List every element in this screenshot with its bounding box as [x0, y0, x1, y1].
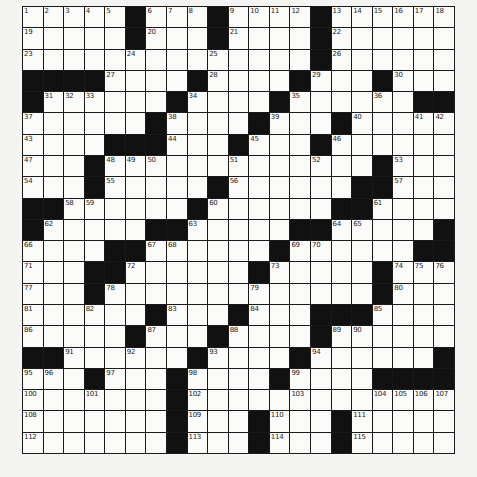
grid-cell[interactable]: 83 [167, 305, 187, 325]
grid-cell[interactable]: 32 [64, 92, 84, 112]
grid-cell[interactable] [44, 241, 64, 261]
grid-cell[interactable] [188, 28, 208, 48]
grid-cell[interactable] [64, 135, 84, 155]
grid-cell[interactable]: 114 [270, 433, 290, 453]
grid-cell[interactable] [64, 390, 84, 410]
grid-cell[interactable] [229, 369, 249, 389]
grid-cell[interactable]: 64 [332, 220, 352, 240]
grid-cell[interactable]: 107 [434, 390, 454, 410]
grid-cell[interactable] [146, 177, 166, 197]
grid-cell[interactable] [414, 326, 434, 346]
grid-cell[interactable] [188, 284, 208, 304]
grid-cell[interactable] [44, 411, 64, 431]
grid-cell[interactable] [229, 262, 249, 282]
grid-cell[interactable]: 96 [44, 369, 64, 389]
grid-cell[interactable] [270, 50, 290, 70]
grid-cell[interactable] [64, 262, 84, 282]
grid-cell[interactable] [85, 326, 105, 346]
grid-cell[interactable]: 74 [393, 262, 413, 282]
grid-cell[interactable] [229, 390, 249, 410]
grid-cell[interactable]: 2 [44, 7, 64, 27]
grid-cell[interactable]: 100 [23, 390, 43, 410]
grid-cell[interactable] [208, 220, 228, 240]
grid-cell[interactable] [249, 28, 269, 48]
grid-cell[interactable]: 62 [44, 220, 64, 240]
grid-cell[interactable] [208, 369, 228, 389]
grid-cell[interactable] [126, 433, 146, 453]
grid-cell[interactable] [332, 177, 352, 197]
grid-cell[interactable] [64, 28, 84, 48]
grid-cell[interactable] [352, 71, 372, 91]
grid-cell[interactable]: 69 [290, 241, 310, 261]
grid-cell[interactable]: 36 [373, 92, 393, 112]
grid-cell[interactable]: 12 [290, 7, 310, 27]
grid-cell[interactable]: 34 [188, 92, 208, 112]
grid-cell[interactable] [188, 135, 208, 155]
grid-cell[interactable]: 103 [290, 390, 310, 410]
grid-cell[interactable] [352, 156, 372, 176]
grid-cell[interactable] [290, 50, 310, 70]
grid-cell[interactable] [270, 156, 290, 176]
grid-cell[interactable]: 19 [23, 28, 43, 48]
grid-cell[interactable] [208, 305, 228, 325]
grid-cell[interactable] [188, 305, 208, 325]
grid-cell[interactable] [229, 220, 249, 240]
grid-cell[interactable] [146, 348, 166, 368]
grid-cell[interactable] [352, 262, 372, 282]
grid-cell[interactable] [126, 284, 146, 304]
grid-cell[interactable] [64, 241, 84, 261]
grid-cell[interactable] [290, 177, 310, 197]
grid-cell[interactable]: 25 [208, 50, 228, 70]
grid-cell[interactable]: 56 [229, 177, 249, 197]
grid-cell[interactable]: 86 [23, 326, 43, 346]
grid-cell[interactable] [167, 156, 187, 176]
grid-cell[interactable]: 47 [23, 156, 43, 176]
grid-cell[interactable]: 112 [23, 433, 43, 453]
grid-cell[interactable] [270, 305, 290, 325]
grid-cell[interactable] [229, 433, 249, 453]
grid-cell[interactable] [64, 50, 84, 70]
grid-cell[interactable] [167, 28, 187, 48]
grid-cell[interactable]: 1 [23, 7, 43, 27]
grid-cell[interactable]: 101 [85, 390, 105, 410]
grid-cell[interactable] [414, 348, 434, 368]
grid-cell[interactable] [188, 50, 208, 70]
grid-cell[interactable] [290, 135, 310, 155]
grid-cell[interactable] [44, 390, 64, 410]
grid-cell[interactable] [105, 390, 125, 410]
grid-cell[interactable] [290, 411, 310, 431]
grid-cell[interactable]: 15 [373, 7, 393, 27]
grid-cell[interactable]: 4 [85, 7, 105, 27]
grid-cell[interactable] [146, 199, 166, 219]
grid-cell[interactable]: 20 [146, 28, 166, 48]
grid-cell[interactable] [393, 135, 413, 155]
grid-cell[interactable]: 53 [393, 156, 413, 176]
grid-cell[interactable] [332, 262, 352, 282]
grid-cell[interactable]: 58 [64, 199, 84, 219]
grid-cell[interactable] [290, 113, 310, 133]
grid-cell[interactable] [332, 369, 352, 389]
grid-cell[interactable] [208, 156, 228, 176]
grid-cell[interactable]: 23 [23, 50, 43, 70]
grid-cell[interactable]: 49 [126, 156, 146, 176]
grid-cell[interactable]: 35 [290, 92, 310, 112]
grid-cell[interactable] [270, 390, 290, 410]
grid-cell[interactable] [434, 199, 454, 219]
grid-cell[interactable]: 109 [188, 411, 208, 431]
grid-cell[interactable] [105, 113, 125, 133]
grid-cell[interactable] [64, 220, 84, 240]
grid-cell[interactable] [188, 156, 208, 176]
grid-cell[interactable] [393, 199, 413, 219]
grid-cell[interactable] [44, 50, 64, 70]
grid-cell[interactable] [393, 305, 413, 325]
grid-cell[interactable]: 71 [23, 262, 43, 282]
grid-cell[interactable] [311, 262, 331, 282]
grid-cell[interactable]: 93 [208, 348, 228, 368]
grid-cell[interactable] [414, 28, 434, 48]
grid-cell[interactable]: 27 [105, 71, 125, 91]
grid-cell[interactable] [249, 369, 269, 389]
grid-cell[interactable]: 110 [270, 411, 290, 431]
grid-cell[interactable]: 28 [208, 71, 228, 91]
grid-cell[interactable]: 26 [332, 50, 352, 70]
grid-cell[interactable]: 60 [208, 199, 228, 219]
